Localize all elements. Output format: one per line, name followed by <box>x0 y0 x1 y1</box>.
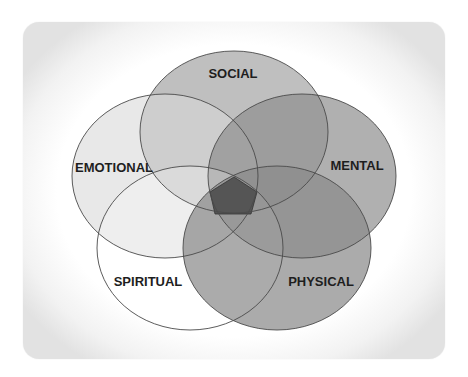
venn-diagram: SOCIALEMOTIONALMENTALSPIRITUALPHYSICAL <box>0 0 468 377</box>
set-physical <box>183 166 371 330</box>
label-emotional: EMOTIONAL <box>75 160 153 175</box>
label-mental: MENTAL <box>330 158 383 173</box>
label-social: SOCIAL <box>208 66 257 81</box>
label-spiritual: SPIRITUAL <box>114 274 183 289</box>
label-physical: PHYSICAL <box>288 274 354 289</box>
